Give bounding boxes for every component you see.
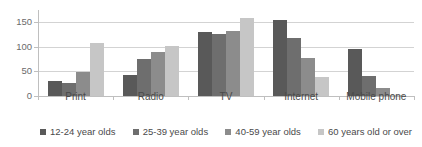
- x-axis-tick: [264, 96, 265, 100]
- bar-group: [188, 10, 263, 96]
- y-axis-tick-label: 150: [0, 18, 32, 28]
- legend-swatch-icon: [40, 129, 46, 135]
- x-axis-label-radio: Radio: [113, 92, 188, 102]
- x-axis-label-mobile-phone: Mobile phone: [339, 92, 414, 102]
- legend-label: 12-24 year olds: [50, 127, 115, 137]
- y-axis-tick-label: 0: [0, 91, 32, 101]
- bar-group: [113, 10, 188, 96]
- bar: [198, 32, 212, 96]
- bar: [90, 43, 104, 96]
- bar: [226, 31, 240, 96]
- plot-area: [38, 10, 414, 96]
- y-axis-tick-label: 100: [0, 42, 32, 52]
- legend-item[interactable]: 12-24 year olds: [40, 127, 115, 137]
- x-axis-tick: [188, 96, 189, 100]
- bar: [287, 38, 301, 96]
- bar-group-bars: [188, 10, 263, 96]
- bar-group: [339, 10, 414, 96]
- legend-item[interactable]: 25-39 year olds: [133, 127, 208, 137]
- bar-chart: 050100150 PrintRadioTVInternetMobile pho…: [0, 0, 422, 147]
- bar: [240, 18, 254, 96]
- x-axis-label-print: Print: [38, 92, 113, 102]
- legend-label: 60 years old or over: [328, 127, 412, 137]
- legend-item[interactable]: 40-59 year olds: [225, 127, 300, 137]
- y-axis-tick-label: 50: [0, 67, 32, 77]
- legend-item[interactable]: 60 years old or over: [318, 127, 412, 137]
- x-axis-tick: [414, 96, 415, 100]
- x-axis-tick: [339, 96, 340, 100]
- bar-group: [264, 10, 339, 96]
- bar-group: [38, 10, 113, 96]
- bar: [212, 34, 226, 96]
- bar-group-bars: [38, 10, 113, 96]
- bar-group-bars: [264, 10, 339, 96]
- x-axis-tick: [38, 96, 39, 100]
- bar: [165, 46, 179, 96]
- bar: [151, 52, 165, 96]
- bar-group-bars: [339, 10, 414, 96]
- legend-label: 25-39 year olds: [143, 127, 208, 137]
- legend-swatch-icon: [133, 129, 139, 135]
- x-axis-tick: [113, 96, 114, 100]
- bar: [348, 49, 362, 96]
- x-axis-label-tv: TV: [188, 92, 263, 102]
- bar: [273, 20, 287, 96]
- legend-swatch-icon: [225, 129, 231, 135]
- bar-group-bars: [113, 10, 188, 96]
- chart-legend: 12-24 year olds25-39 year olds40-59 year…: [38, 125, 414, 139]
- x-axis-label-internet: Internet: [264, 92, 339, 102]
- legend-swatch-icon: [318, 129, 324, 135]
- legend-label: 40-59 year olds: [235, 127, 300, 137]
